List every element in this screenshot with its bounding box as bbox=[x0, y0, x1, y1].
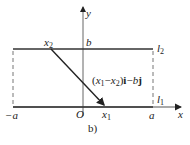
neg-a-label: −a bbox=[5, 109, 18, 121]
l2-label: l2 bbox=[157, 42, 164, 56]
origin-label: O bbox=[76, 108, 84, 120]
a-label: a bbox=[149, 109, 155, 121]
diagram: y x O b x2 x1 −a a l2 l1 (x1−x2)i−bj b) bbox=[0, 0, 190, 145]
l1-label: l1 bbox=[157, 93, 164, 107]
vector-label: (x1−x2)i−bj bbox=[92, 74, 142, 88]
y-axis-label: y bbox=[85, 7, 91, 19]
x-axis-label: x bbox=[177, 108, 183, 120]
figure-caption: b) bbox=[88, 122, 98, 135]
x2-label: x2 bbox=[43, 36, 53, 50]
x1-label: x1 bbox=[101, 108, 111, 122]
b-label: b bbox=[86, 36, 92, 48]
